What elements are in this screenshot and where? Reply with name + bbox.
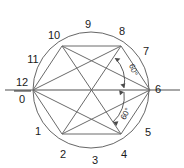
angle-label-upper: 60° <box>127 63 139 77</box>
arrowhead-upper-end-icon <box>120 83 125 88</box>
label-9: 9 <box>85 18 91 30</box>
diagram-canvas: 12 0 1 2 3 4 5 6 7 8 9 10 11 60° 60° <box>0 0 184 168</box>
label-4: 4 <box>121 148 127 160</box>
label-1: 1 <box>35 125 41 137</box>
label-3: 3 <box>92 154 98 166</box>
label-6: 6 <box>155 83 161 95</box>
label-0: 0 <box>19 93 25 105</box>
label-8: 8 <box>119 25 125 37</box>
label-2: 2 <box>60 148 66 160</box>
label-10: 10 <box>48 29 60 41</box>
label-5: 5 <box>145 126 151 138</box>
label-11: 11 <box>27 53 38 65</box>
arrowhead-lower-start-icon <box>119 90 124 95</box>
chord-2-to-6 <box>62 90 150 134</box>
hexagon-clock-diagram: 12 0 1 2 3 4 5 6 7 8 9 10 11 60° 60° <box>0 0 184 168</box>
label-12: 12 <box>16 76 28 88</box>
label-7: 7 <box>143 45 149 57</box>
